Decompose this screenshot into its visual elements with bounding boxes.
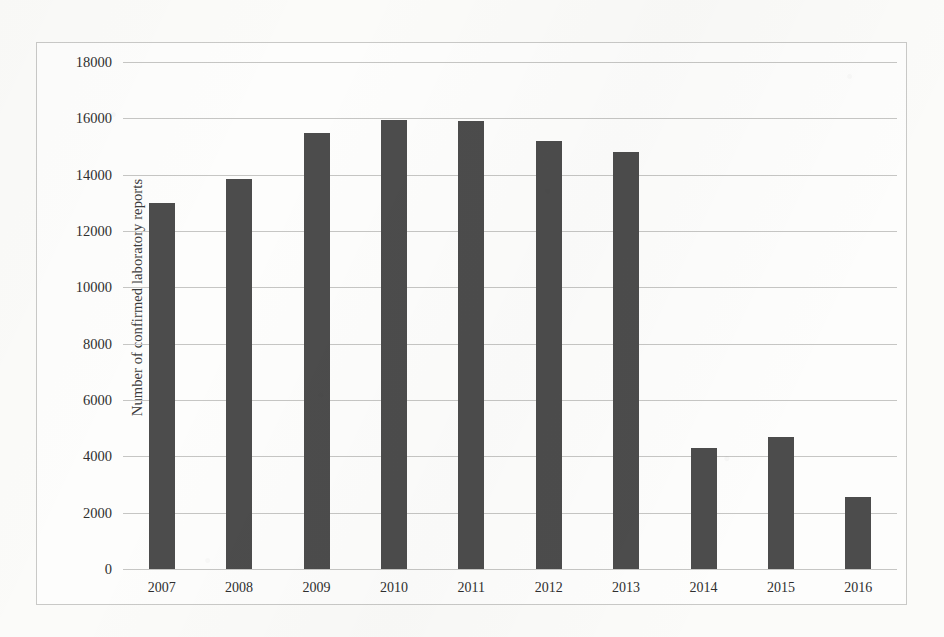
- y-axis-tick-label: 16000: [76, 110, 112, 127]
- bar: [149, 203, 175, 569]
- bar: [381, 120, 407, 569]
- x-axis-tick-label: 2015: [767, 580, 795, 596]
- y-axis-tick-label: 4000: [83, 448, 112, 465]
- x-axis-tick-label: 2009: [303, 580, 331, 596]
- bar: [845, 497, 871, 569]
- y-axis-tick-label: 14000: [76, 166, 112, 183]
- chart-frame: Number of confirmed laboratory reports 0…: [36, 42, 907, 605]
- x-axis-tick-label: 2012: [535, 580, 563, 596]
- gridline: [123, 569, 897, 570]
- x-axis-tick-label: 2008: [225, 580, 253, 596]
- x-axis-tick-label: 2010: [380, 580, 408, 596]
- bar: [304, 133, 330, 569]
- y-axis-tick-label: 18000: [76, 54, 112, 71]
- y-axis-tick-label: 0: [105, 561, 112, 578]
- x-axis-tick-label: 2007: [148, 580, 176, 596]
- gridline: [123, 62, 897, 63]
- bar: [458, 121, 484, 569]
- x-axis-tick-label: 2011: [458, 580, 485, 596]
- plot-area: 0200040006000800010000120001400016000180…: [123, 62, 897, 569]
- y-axis-tick-label: 10000: [76, 279, 112, 296]
- gridline: [123, 118, 897, 119]
- y-axis-tick-label: 12000: [76, 223, 112, 240]
- bar: [536, 141, 562, 569]
- x-axis-tick-label: 2016: [844, 580, 872, 596]
- y-axis-tick-label: 8000: [83, 335, 112, 352]
- y-axis-tick-label: 6000: [83, 392, 112, 409]
- bar: [226, 179, 252, 569]
- x-axis-tick-label: 2013: [612, 580, 640, 596]
- bar: [691, 448, 717, 569]
- y-axis-tick-label: 2000: [83, 504, 112, 521]
- gridline: [123, 175, 897, 176]
- x-axis-tick-label: 2014: [690, 580, 718, 596]
- bar: [768, 437, 794, 569]
- bar: [613, 152, 639, 569]
